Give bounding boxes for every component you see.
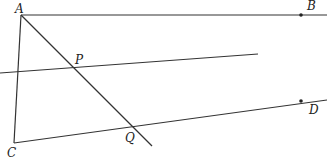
point-b-dot bbox=[299, 13, 303, 17]
label-b: B bbox=[306, 0, 316, 13]
point-d-dot bbox=[299, 99, 303, 103]
label-d: D bbox=[308, 103, 319, 117]
label-a: A bbox=[14, 2, 24, 16]
transversal-line-p bbox=[0, 54, 258, 73]
label-p: P bbox=[74, 53, 84, 67]
label-q: Q bbox=[125, 131, 135, 145]
segment-ac bbox=[14, 15, 21, 143]
ray-cd bbox=[14, 100, 327, 143]
label-c: C bbox=[7, 146, 16, 160]
geometry-diagram: A B C D P Q bbox=[0, 0, 327, 161]
